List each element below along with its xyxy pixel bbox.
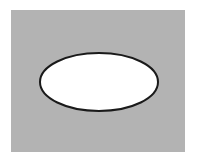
white-ellipse-shape: [40, 53, 158, 111]
diagram-canvas: [0, 0, 197, 162]
